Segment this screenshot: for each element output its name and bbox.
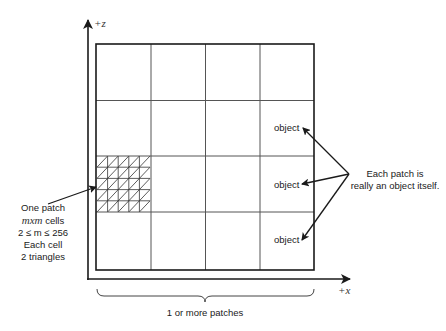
object-pointer-arrows — [302, 128, 349, 240]
note-line-each-cell: Each cell — [0, 239, 86, 251]
object-label-bottom: object — [274, 234, 299, 246]
subdivided-patch — [97, 156, 150, 212]
note-line-cells: mxm cells — [0, 214, 86, 227]
note-line-range: 2 ≤ m ≤ 256 — [0, 227, 86, 239]
object-label-top: object — [274, 122, 299, 134]
z-axis-label: +z — [94, 17, 106, 29]
object-note-line1: Each patch is — [344, 168, 446, 180]
terrain-patch-diagram: +z +x One patch mxm cells 2 ≤ m ≤ 256 Ea… — [0, 0, 446, 331]
x-axis-label: +x — [338, 284, 350, 296]
patch-description: One patch mxm cells 2 ≤ m ≤ 256 Each cel… — [0, 202, 86, 263]
object-label-middle: object — [274, 179, 299, 191]
object-note: Each patch is really an object itself. — [344, 168, 446, 192]
brace-label: 1 or more patches — [145, 307, 265, 319]
diagram-canvas — [0, 0, 446, 331]
note-line-triangles: 2 triangles — [0, 251, 86, 263]
brace — [97, 289, 314, 302]
mxm-variable: mxm — [22, 214, 43, 226]
note-line-one-patch: One patch — [0, 202, 86, 214]
cells-text: cells — [43, 215, 65, 226]
object-note-line2: really an object itself. — [344, 180, 446, 192]
